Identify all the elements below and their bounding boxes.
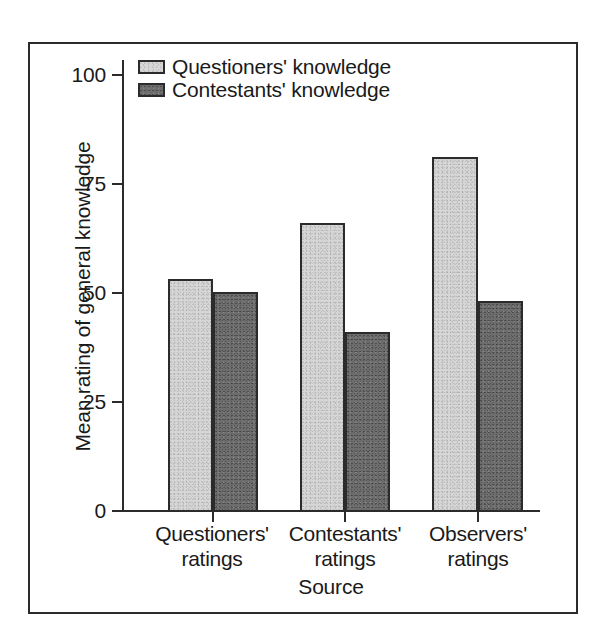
bar-chart-plot-area: 100 75 50 25 0 Questioners' knowledge Co… (0, 0, 603, 639)
y-tick-mark-25 (112, 401, 122, 403)
figure-container: 100 75 50 25 0 Questioners' knowledge Co… (0, 0, 603, 639)
legend-label-questioners-knowledge: Questioners' knowledge (172, 56, 391, 77)
bar-observers-ratings-contestants-knowledge (478, 301, 523, 512)
bar-contestants-ratings-contestants-knowledge (345, 332, 390, 512)
legend-swatch-light-gray-icon (138, 60, 165, 74)
y-axis-line (122, 60, 124, 512)
y-tick-label-100: 100 (72, 64, 106, 85)
legend-swatch-dark-gray-icon (138, 83, 165, 97)
bar-contestants-ratings-questioners-knowledge (300, 223, 345, 512)
legend-entry-questioners-knowledge: Questioners' knowledge (138, 55, 391, 78)
y-axis-title: Mean rating of general knowledge (72, 97, 93, 497)
bar-questioners-ratings-questioners-knowledge (168, 279, 213, 512)
x-category-label-line2: ratings (388, 546, 568, 571)
legend-label-contestants-knowledge: Contestants' knowledge (172, 79, 390, 100)
x-category-label-line1: Observers' (388, 521, 568, 546)
bar-questioners-ratings-contestants-knowledge (213, 292, 258, 512)
chart-legend: Questioners' knowledge Contestants' know… (138, 55, 391, 101)
x-category-label-observers-ratings: Observers' ratings (388, 521, 568, 571)
bar-observers-ratings-questioners-knowledge (432, 157, 478, 512)
x-axis-title: Source (122, 576, 540, 597)
y-tick-mark-100 (112, 74, 122, 76)
y-tick-label-0: 0 (95, 500, 106, 521)
y-tick-mark-50 (112, 292, 122, 294)
y-tick-mark-0 (112, 510, 122, 512)
y-tick-mark-75 (112, 183, 122, 185)
legend-entry-contestants-knowledge: Contestants' knowledge (138, 78, 391, 101)
